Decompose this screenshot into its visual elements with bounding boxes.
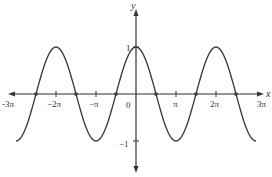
x-tick-label-neg-3pi: -3π (2, 99, 14, 109)
x-axis-right-arrow-icon (257, 92, 264, 97)
y-axis-label: y (130, 0, 136, 11)
y-tick-label-1: 1 (126, 43, 131, 53)
x-axis-left-arrow-icon (8, 92, 15, 97)
x-tick-label-neg-pi: −π (89, 99, 99, 109)
x-tick-label-2pi: 2π (210, 99, 220, 109)
x-tick-label-neg-2pi: −2π (47, 99, 62, 109)
x-tick-label-pi: π (173, 99, 178, 109)
zero-crossing-dot (234, 92, 238, 96)
zero-crossing-dot (34, 92, 38, 96)
y-axis (133, 9, 139, 173)
y-tick-label-neg-1: −1 (119, 139, 129, 149)
cosine-graph: y x 1 −1 0 -3π −2π −π π 2π 3π (0, 0, 272, 177)
zero-crossing-dot (154, 92, 158, 96)
graph-canvas: y x 1 −1 0 -3π −2π −π π 2π 3π (0, 0, 272, 177)
zero-crossing-dot (74, 92, 78, 96)
y-axis-down-arrow-icon (134, 166, 139, 173)
origin-label: 0 (126, 100, 131, 110)
x-tick-label-3pi: 3π (257, 99, 267, 109)
x-axis-label: x (265, 88, 271, 99)
zero-crossing-dot (194, 92, 198, 96)
zero-crossing-dot (114, 92, 118, 96)
